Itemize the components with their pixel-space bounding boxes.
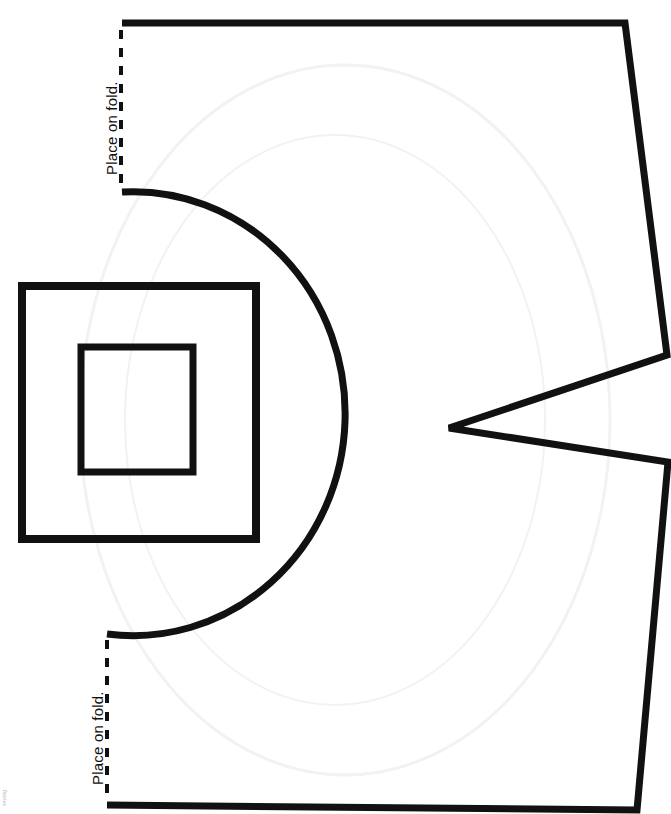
pattern-sheet: Place on fold. Place on fold. sewing — [0, 0, 671, 814]
corner-credit-text: sewing — [1, 790, 7, 806]
fold-label-bottom: Place on fold. — [89, 691, 106, 785]
outer-square — [22, 286, 256, 539]
fold-edge-arc — [107, 192, 345, 636]
inner-square — [81, 347, 193, 472]
fold-label-top: Place on fold. — [103, 81, 120, 175]
